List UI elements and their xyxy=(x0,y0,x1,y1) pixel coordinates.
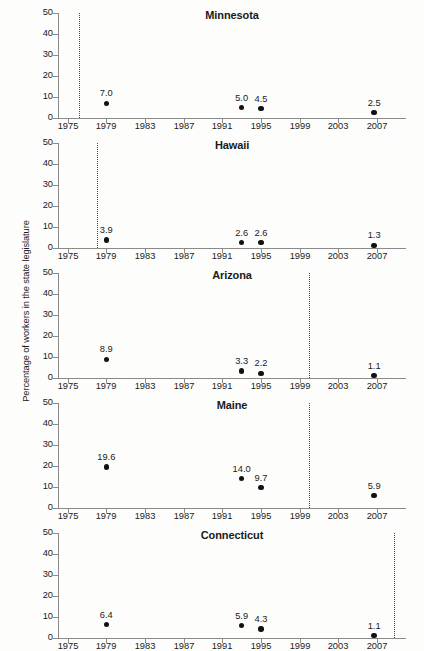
y-tick-label: 40 xyxy=(17,549,53,558)
y-tick-mark xyxy=(53,336,58,337)
y-tick-mark xyxy=(53,118,58,119)
y-tick-mark xyxy=(53,466,58,467)
y-tick-label: 30 xyxy=(17,50,53,59)
y-tick-mark xyxy=(53,185,58,186)
data-point-label: 1.1 xyxy=(354,361,394,371)
y-tick-mark xyxy=(53,575,58,576)
y-tick-mark xyxy=(53,533,58,534)
y-tick-mark xyxy=(53,76,58,77)
y-tick-mark xyxy=(53,55,58,56)
y-tick-label-wrap: 50 xyxy=(10,398,53,407)
data-point xyxy=(239,368,244,373)
panel-title: Hawaii xyxy=(58,139,406,151)
y-tick-label: 20 xyxy=(17,461,53,470)
data-point-label: 7.0 xyxy=(86,88,126,98)
data-point-label: 3.9 xyxy=(86,225,126,235)
data-point-label: 19.6 xyxy=(86,452,126,462)
data-point-label: 5.9 xyxy=(354,481,394,491)
y-tick-mark xyxy=(53,378,58,379)
y-tick-mark xyxy=(53,34,58,35)
y-tick-label: 50 xyxy=(17,398,53,407)
y-tick-label: 10 xyxy=(17,352,53,361)
panel-title: Connecticut xyxy=(58,529,406,541)
data-point-label: 4.3 xyxy=(241,614,281,624)
y-tick-label-wrap: 10 xyxy=(10,482,53,491)
data-point-label: 1.1 xyxy=(354,621,394,631)
x-axis-line xyxy=(58,248,406,249)
y-tick-mark xyxy=(53,617,58,618)
y-tick-mark xyxy=(53,97,58,98)
y-tick-label: 20 xyxy=(17,331,53,340)
data-point xyxy=(104,464,109,469)
y-tick-mark xyxy=(53,206,58,207)
x-axis-line xyxy=(58,508,406,509)
y-tick-label: 30 xyxy=(17,310,53,319)
data-point xyxy=(258,626,263,631)
y-tick-mark xyxy=(53,638,58,639)
y-tick-mark xyxy=(53,508,58,509)
data-point xyxy=(104,622,109,627)
x-tick-label: 1983 xyxy=(123,641,167,651)
multi-panel-scatter-figure: Percentage of workers in the state legis… xyxy=(0,0,424,651)
y-tick-label-wrap: 50 xyxy=(10,268,53,277)
data-point-label: 2.5 xyxy=(354,98,394,108)
y-tick-label-wrap: 20 xyxy=(10,591,53,600)
data-point xyxy=(258,240,263,245)
y-tick-mark xyxy=(53,248,58,249)
y-tick-label: 40 xyxy=(17,419,53,428)
y-tick-label-wrap: 20 xyxy=(10,331,53,340)
panel-hawaii: Hawaii0102030405019751979198319871991199… xyxy=(0,130,424,261)
y-tick-mark xyxy=(53,273,58,274)
y-tick-label: 10 xyxy=(17,222,53,231)
y-tick-mark xyxy=(53,315,58,316)
y-tick-mark xyxy=(53,596,58,597)
y-tick-label-wrap: 30 xyxy=(10,570,53,579)
y-tick-label-wrap: 20 xyxy=(10,461,53,470)
y-tick-label: 10 xyxy=(17,482,53,491)
panel-minnesota: Minnesota0102030405019751979198319871991… xyxy=(0,0,424,131)
x-tick-label: 1991 xyxy=(200,641,244,651)
y-tick-label: 30 xyxy=(17,440,53,449)
y-tick-label-wrap: 10 xyxy=(10,352,53,361)
y-tick-label: 40 xyxy=(17,289,53,298)
x-tick-label: 2007 xyxy=(355,641,399,651)
y-tick-label-wrap: 40 xyxy=(10,29,53,38)
y-tick-label: 10 xyxy=(17,92,53,101)
x-tick-label: 1995 xyxy=(239,641,283,651)
y-tick-mark xyxy=(53,164,58,165)
y-tick-label-wrap: 40 xyxy=(10,159,53,168)
data-point-label: 4.5 xyxy=(241,94,281,104)
y-tick-label-wrap: 50 xyxy=(10,8,53,17)
data-point xyxy=(371,110,376,115)
reference-line xyxy=(79,13,80,118)
data-point xyxy=(104,101,109,106)
x-axis-line xyxy=(58,118,406,119)
y-axis-line xyxy=(58,143,59,248)
data-point xyxy=(371,243,376,248)
y-tick-mark xyxy=(53,357,58,358)
y-tick-mark xyxy=(53,445,58,446)
y-axis-line xyxy=(58,403,59,508)
y-axis-line xyxy=(58,13,59,118)
x-axis-line xyxy=(58,378,406,379)
y-tick-label: 20 xyxy=(17,591,53,600)
panel-title: Maine xyxy=(58,399,406,411)
data-point xyxy=(258,106,263,111)
y-tick-label-wrap: 10 xyxy=(10,222,53,231)
y-tick-label: 30 xyxy=(17,180,53,189)
y-axis-line xyxy=(58,533,59,638)
y-tick-label-wrap: 30 xyxy=(10,180,53,189)
panel-title: Arizona xyxy=(58,269,406,281)
y-tick-label-wrap: 30 xyxy=(10,50,53,59)
data-point xyxy=(104,357,109,362)
data-point xyxy=(239,240,244,245)
x-tick-label: 1979 xyxy=(84,641,128,651)
y-tick-label-wrap: 40 xyxy=(10,549,53,558)
y-tick-label: 10 xyxy=(17,612,53,621)
y-tick-label-wrap: 40 xyxy=(10,419,53,428)
y-tick-label: 40 xyxy=(17,29,53,38)
y-tick-mark xyxy=(53,403,58,404)
data-point-label: 2.6 xyxy=(241,228,281,238)
y-tick-mark xyxy=(53,554,58,555)
y-tick-mark xyxy=(53,294,58,295)
